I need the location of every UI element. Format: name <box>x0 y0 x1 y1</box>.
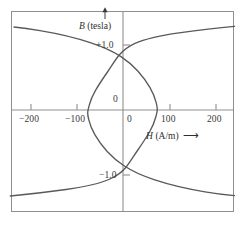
y-tick-label-0: 0 <box>113 94 118 104</box>
hysteresis-figure: −200 −100 0 100 200 +1.0 0 −1.0 B(tesla)… <box>0 0 248 229</box>
x-tick-label-200: 200 <box>207 114 222 124</box>
y-tick-label-plus-1: +1.0 <box>96 40 114 50</box>
x-axis-symbol: H <box>146 131 153 141</box>
y-tick-label-minus-1: −1.0 <box>99 170 117 180</box>
x-tick-label--100: −100 <box>65 114 85 124</box>
x-axis-unit: (A/m) <box>155 131 178 141</box>
x-tick-label-100: 100 <box>161 114 176 124</box>
plot-frame <box>11 11 234 212</box>
y-axis-unit: (tesla) <box>87 21 111 31</box>
x-tick-label-0: 0 <box>127 114 132 124</box>
y-axis-symbol: B <box>79 21 85 31</box>
y-axis-title: B(tesla) <box>79 21 111 31</box>
x-tick-label--200: −200 <box>19 114 39 124</box>
x-axis-title: H(A/m)⟶ <box>146 129 199 142</box>
x-axis-arrow-icon: ⟶ <box>183 129 199 141</box>
